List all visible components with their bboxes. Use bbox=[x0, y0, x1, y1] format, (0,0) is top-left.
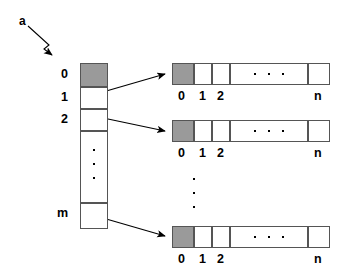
outer-array-cell-1 bbox=[80, 87, 108, 109]
outer-array-label-0: 0 bbox=[46, 68, 68, 81]
inner-array-m-label-0: 0 bbox=[178, 253, 185, 266]
inner-array-0-cell-0 bbox=[172, 63, 194, 85]
inner-array-1-label-0: 0 bbox=[178, 147, 185, 160]
inner-array-m-label-1: 1 bbox=[199, 253, 206, 266]
outer-array-cell-0 bbox=[80, 63, 108, 87]
outer-array-label-m: m bbox=[46, 207, 68, 220]
inner-array-1-cell-n bbox=[308, 120, 330, 142]
inner-array-1-label-2: 2 bbox=[217, 147, 224, 160]
outer-array-cell-m bbox=[80, 203, 108, 229]
inner-array-1-cell-1 bbox=[194, 120, 212, 142]
pointer-label-a: a bbox=[19, 15, 26, 27]
outer-array-cell-middle bbox=[80, 131, 108, 203]
inner-array-1-cell-0 bbox=[172, 120, 194, 142]
inner-array-0-cell-2 bbox=[212, 63, 230, 85]
inner-array-m-cell-1 bbox=[194, 226, 212, 248]
diagram-canvas: a 0 1 2 m 0 bbox=[0, 0, 343, 280]
outer-array-label-1: 1 bbox=[46, 91, 68, 104]
inner-array-m-cell-0 bbox=[172, 226, 194, 248]
pointer-arrow-a bbox=[28, 26, 52, 55]
outer-array-cell-2 bbox=[80, 109, 108, 131]
outer-array-label-2: 2 bbox=[46, 113, 68, 126]
inner-array-m-cell-n bbox=[308, 226, 330, 248]
inner-array-m-cell-2 bbox=[212, 226, 230, 248]
inner-array-1-cell-2 bbox=[212, 120, 230, 142]
inner-array-0-cell-n bbox=[308, 63, 330, 85]
inner-array-0-cell-1 bbox=[194, 63, 212, 85]
inner-array-1-label-n: n bbox=[314, 147, 322, 160]
inner-array-1-label-1: 1 bbox=[199, 147, 206, 160]
inner-array-m-label-2: 2 bbox=[217, 253, 224, 266]
inner-array-0-label-n: n bbox=[314, 90, 322, 103]
inner-array-0-label-2: 2 bbox=[217, 90, 224, 103]
inner-array-m-label-n: n bbox=[314, 253, 322, 266]
inner-array-0-label-1: 1 bbox=[199, 90, 206, 103]
inner-array-0-label-0: 0 bbox=[178, 90, 185, 103]
